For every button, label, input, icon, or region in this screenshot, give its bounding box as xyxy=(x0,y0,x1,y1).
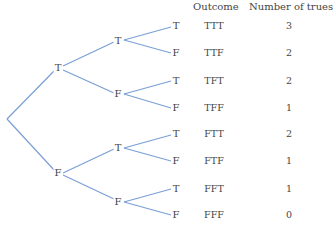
node-l1-1: F xyxy=(54,167,63,179)
count-cell: 3 xyxy=(286,20,292,32)
count-cell: 1 xyxy=(286,155,292,167)
outcome-cell: FTF xyxy=(204,155,224,167)
outcome-cell: TTF xyxy=(204,47,223,59)
header-number-of-trues: Number of trues xyxy=(249,1,333,13)
outcome-cell: TFF xyxy=(204,102,224,114)
count-cell: 1 xyxy=(286,102,292,114)
count-cell: 2 xyxy=(286,128,292,140)
outcome-cell: FFF xyxy=(204,209,224,221)
node-l2-3: F xyxy=(114,196,123,208)
count-cell: 2 xyxy=(286,75,292,87)
count-cell: 2 xyxy=(286,47,292,59)
node-l1-0: T xyxy=(54,62,63,74)
outcome-cell: FTT xyxy=(204,128,223,140)
count-cell: 0 xyxy=(286,209,292,221)
node-l3-5: F xyxy=(172,155,181,167)
node-l3-7: F xyxy=(172,209,181,221)
node-l3-4: T xyxy=(172,128,181,140)
node-l2-0: T xyxy=(114,35,123,47)
node-l3-6: T xyxy=(172,183,181,195)
node-l2-2: T xyxy=(114,142,123,154)
outcome-cell: TFT xyxy=(204,75,223,87)
count-cell: 1 xyxy=(286,183,292,195)
outcome-cell: TTT xyxy=(204,20,223,32)
node-l2-1: F xyxy=(114,88,123,100)
node-l3-3: F xyxy=(172,102,181,114)
node-l3-0: T xyxy=(172,20,181,32)
outcome-cell: FFT xyxy=(204,183,224,195)
header-outcome: Outcome xyxy=(193,1,239,13)
node-l3-2: T xyxy=(172,75,181,87)
node-l3-1: F xyxy=(172,47,181,59)
